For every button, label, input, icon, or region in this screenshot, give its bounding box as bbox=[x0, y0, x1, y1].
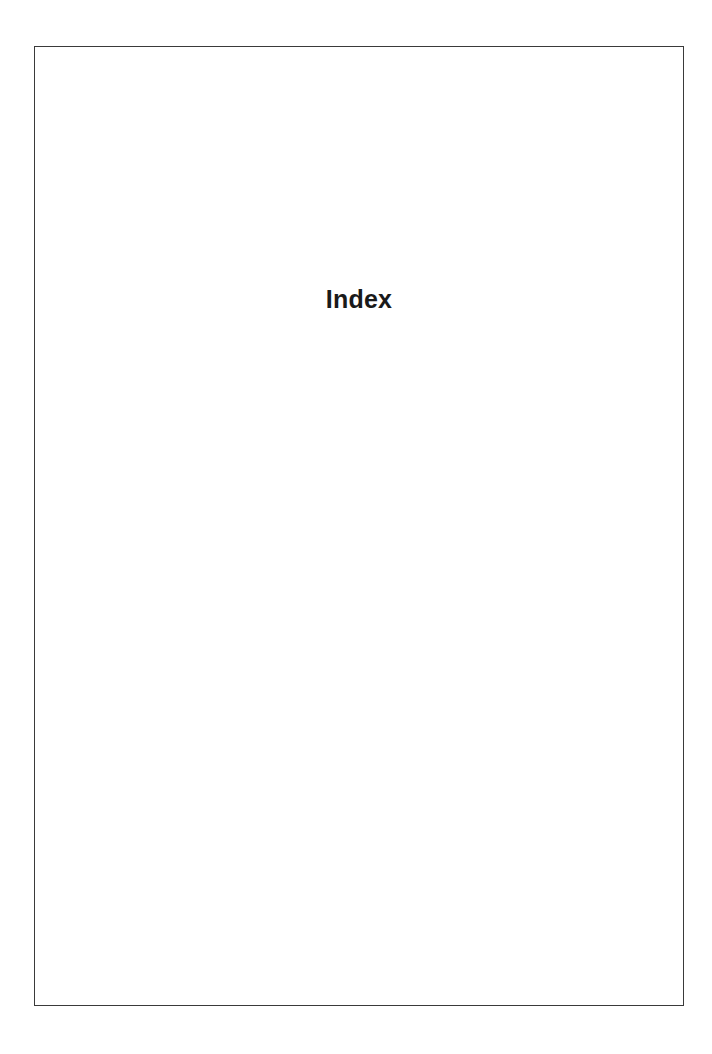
page-border-frame: Index bbox=[34, 46, 684, 1006]
page-title: Index bbox=[35, 285, 683, 314]
